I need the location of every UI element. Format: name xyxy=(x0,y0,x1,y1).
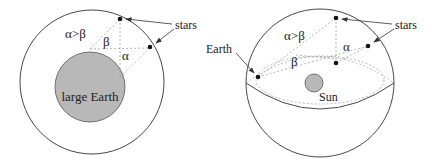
beta-label: β xyxy=(103,34,110,49)
earth-label: Earth xyxy=(206,42,232,56)
inequality-label: α>β xyxy=(65,26,86,41)
stars-label: stars xyxy=(175,18,197,32)
earth-dot xyxy=(256,75,261,80)
star-dot xyxy=(366,44,371,49)
orbit-point-dot xyxy=(334,61,339,66)
parallax-diagram: α>β β α large Earth stars Earth α>β β xyxy=(0,0,433,165)
inequality-label: α>β xyxy=(284,28,305,43)
stars-label: stars xyxy=(395,18,417,32)
alpha-label: α xyxy=(343,39,350,54)
beta-label: β xyxy=(291,54,298,69)
left-diagram: α>β β α large Earth stars xyxy=(20,10,197,154)
star-dot xyxy=(148,45,153,50)
alpha-label: α xyxy=(122,48,129,63)
right-diagram: Earth α>β β α Sun stars xyxy=(206,9,417,157)
star-dot xyxy=(118,17,123,22)
construction-lines xyxy=(258,18,368,77)
star-arrow xyxy=(342,19,392,24)
large-earth-label: large Earth xyxy=(61,89,119,104)
star-arrow xyxy=(156,29,174,43)
large-earth xyxy=(55,52,125,122)
sun-label: Sun xyxy=(319,90,338,104)
star-dot xyxy=(334,16,339,21)
